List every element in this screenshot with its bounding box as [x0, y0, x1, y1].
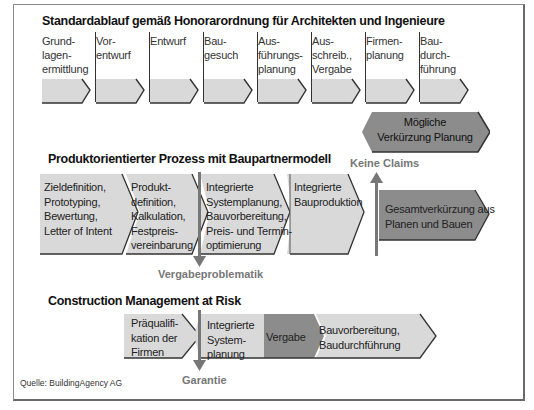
section1-title: Standardablauf gemäß Honorarordnung für …	[42, 14, 445, 28]
phase-arrow	[366, 78, 418, 106]
section2-title: Produktorientierter Prozess mit Baupartn…	[48, 152, 331, 166]
section3-title: Construction Management at Risk	[48, 294, 241, 308]
step-integrierte-systemplanung: IntegrierteSystem-planung	[207, 318, 254, 362]
result-label: Gesamtverkürzung ausPlanen und Bauen	[385, 202, 495, 231]
highlight-label: Mögliche Verkürzung Planung	[360, 115, 490, 144]
phase-label: Grund-lagen-ermittlung	[42, 34, 88, 76]
keine-claims-note: Keine Claims	[350, 157, 419, 169]
step-bauproduktion: IntegrierteBauproduktion	[294, 180, 362, 209]
phase-label: Aus-schreib.,Vergabe	[312, 34, 352, 76]
vergabeproblematik-note: Vergabeproblematik	[158, 268, 263, 280]
step-produktdefinition: Produkt-definition,Kalkulation,Festpreis…	[131, 180, 193, 253]
phase-arrow	[96, 78, 148, 106]
arrow-down-icon	[193, 360, 206, 371]
phase-arrow	[204, 78, 256, 106]
phase-label: Bau-gesuch	[204, 34, 238, 62]
step-systemplanung: IntegrierteSystemplanung,Bauvorbereitung…	[206, 180, 292, 253]
step-zieldefinition: Zieldefinition,Prototyping,Bewertung,Let…	[44, 180, 112, 238]
garantie-down-line	[198, 310, 201, 362]
phase-label: Vor-entwurf	[96, 34, 131, 62]
step-vergabe: Vergabe	[266, 330, 306, 345]
claims-up-line	[375, 182, 378, 256]
source-note: Quelle: BuildingAgency AG	[20, 378, 122, 388]
arrow-down-icon	[193, 256, 206, 267]
step-praequalifikation: Präqualifi-kation derFirmen	[131, 316, 178, 360]
garantie-note: Garantie	[182, 374, 227, 386]
phase-arrow	[312, 78, 364, 106]
phase-arrow	[258, 78, 310, 106]
vergabe-down-line	[198, 172, 201, 258]
phase-label: Bau-durch-führung	[420, 34, 456, 76]
phase-label: Entwurf	[150, 34, 186, 48]
phase-arrow	[150, 78, 202, 106]
phase-label: Aus-führungs-planung	[258, 34, 303, 76]
phase-arrow	[420, 78, 472, 106]
step-bauvorbereitung: Bauvorbereitung,Baudurchführung	[319, 323, 400, 352]
phase-arrow	[42, 78, 94, 106]
phase-label: Firmen-planung	[366, 34, 404, 62]
